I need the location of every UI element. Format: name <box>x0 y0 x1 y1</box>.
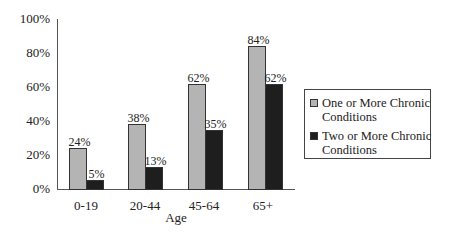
bar <box>205 130 223 190</box>
y-tick: 20% <box>0 148 50 162</box>
y-tick: 100% <box>0 12 50 26</box>
legend: One or More Chronic Conditions Two or Mo… <box>304 89 431 159</box>
bar <box>145 167 163 190</box>
data-label: 35% <box>196 118 236 130</box>
data-label: 62% <box>256 72 296 84</box>
bar <box>265 84 283 190</box>
x-tick: 0-19 <box>56 199 116 213</box>
y-tick: 40% <box>0 114 50 128</box>
data-label: 84% <box>239 34 279 46</box>
y-axis <box>57 19 58 190</box>
data-label: 24% <box>60 136 100 148</box>
legend-swatch-black <box>310 132 318 140</box>
y-tick: 0% <box>0 182 50 196</box>
data-label: 13% <box>136 155 176 167</box>
legend-label: One or More Chronic Conditions <box>322 96 434 124</box>
y-tick: 60% <box>0 80 50 94</box>
data-label: 5% <box>77 168 117 180</box>
x-tick: 65+ <box>233 199 293 213</box>
bar <box>86 180 104 190</box>
legend-label: Two or More Chronic Conditions <box>322 129 434 157</box>
legend-swatch-gray <box>310 99 318 107</box>
x-axis-label: Age <box>146 211 206 225</box>
data-label: 62% <box>179 72 219 84</box>
bar <box>248 46 266 190</box>
data-label: 38% <box>119 112 159 124</box>
bar <box>188 84 206 190</box>
y-tick: 80% <box>0 46 50 60</box>
